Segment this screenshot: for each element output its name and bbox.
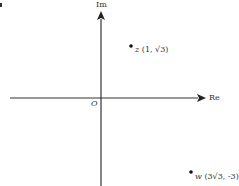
point-w (189, 170, 193, 174)
origin-label: O (91, 100, 98, 108)
point-z-name: z (135, 45, 139, 54)
argand-diagram (0, 0, 239, 186)
corner-mark (0, 3, 2, 7)
point-w-coords: (3√3, -3) (204, 172, 238, 181)
imag-axis-label: Im (96, 1, 107, 9)
point-z-label: z (1, √3) (135, 46, 168, 54)
real-axis-arrow-icon (197, 94, 206, 102)
point-w-name: w (195, 172, 202, 181)
point-z-coords: (1, √3) (142, 45, 169, 54)
imag-axis-arrow-icon (97, 11, 105, 20)
real-axis-label: Re (209, 94, 220, 102)
point-w-label: w (3√3, -3) (195, 173, 239, 181)
point-z (129, 44, 133, 48)
